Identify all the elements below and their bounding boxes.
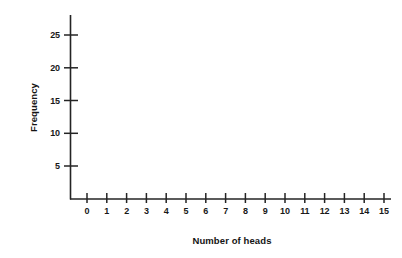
y-tick-label-5: 5 — [40, 161, 60, 171]
x-tick-label-11: 11 — [300, 206, 309, 216]
y-tick-label-10: 10 — [40, 128, 60, 138]
x-tick-label-5: 5 — [184, 206, 189, 216]
y-tick-label-15: 15 — [40, 96, 60, 106]
frequency-chart: 5 10 15 20 25 0 1 2 3 4 5 6 7 8 9 10 11 … — [0, 0, 402, 258]
x-tick-label-10: 10 — [280, 206, 290, 216]
x-tick-label-7: 7 — [223, 206, 228, 216]
y-tick-label-25: 25 — [40, 30, 60, 40]
x-tick-label-13: 13 — [339, 206, 349, 216]
x-tick-label-6: 6 — [203, 206, 208, 216]
x-tick-label-2: 2 — [124, 206, 129, 216]
x-tick-label-14: 14 — [359, 206, 369, 216]
x-tick-label-15: 15 — [379, 206, 389, 216]
plot-area — [0, 0, 402, 258]
x-tick-label-4: 4 — [164, 206, 169, 216]
x-tick-label-0: 0 — [85, 206, 90, 216]
x-tick-label-12: 12 — [320, 206, 330, 216]
y-tick-label-20: 20 — [40, 63, 60, 73]
x-tick-marks — [87, 193, 384, 203]
x-tick-label-1: 1 — [104, 206, 109, 216]
x-tick-label-3: 3 — [144, 206, 149, 216]
x-axis-title: Number of heads — [192, 235, 271, 246]
x-tick-label-9: 9 — [263, 206, 268, 216]
y-axis-title: Frequency — [28, 70, 39, 146]
x-tick-label-8: 8 — [243, 206, 248, 216]
